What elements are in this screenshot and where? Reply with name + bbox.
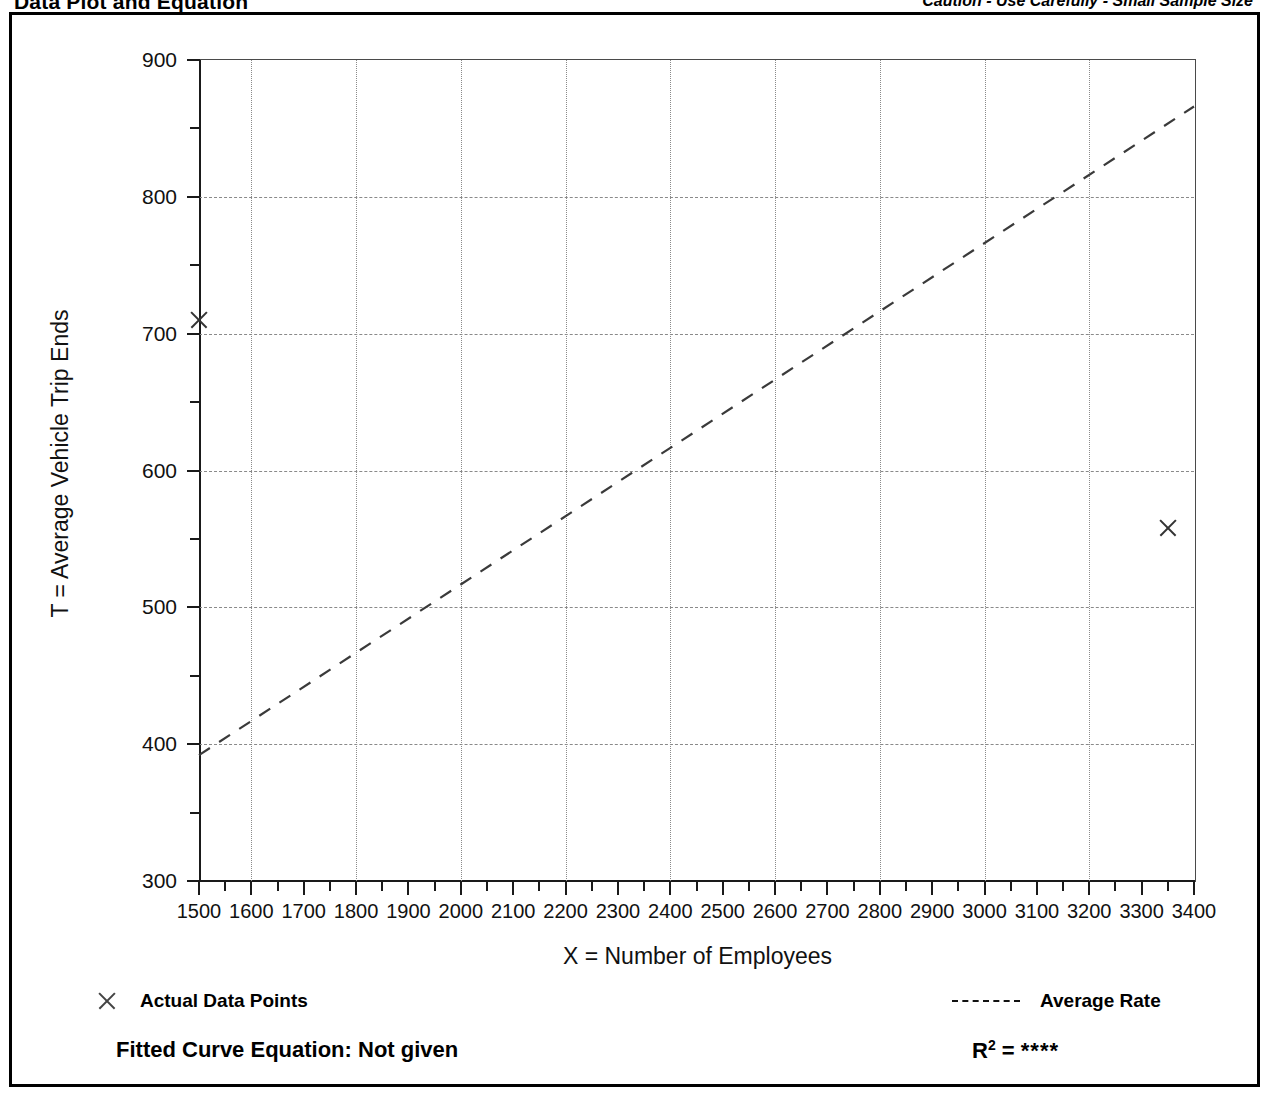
x-minor-tick-2250	[591, 882, 593, 891]
caution-note: Caution - Use Carefully - Small Sample S…	[922, 0, 1253, 10]
x-marker-icon	[96, 990, 118, 1012]
r-squared-value: R2 = ****	[972, 1037, 1059, 1064]
x-tick-1700	[303, 882, 305, 895]
r2-exponent: 2	[988, 1037, 996, 1053]
dashed-line-icon	[952, 1000, 1020, 1002]
y-tick-700	[187, 333, 200, 335]
gridline-x-2600	[775, 60, 776, 881]
y-tick-label-500: 500	[107, 596, 177, 617]
legend-label-data-points: Actual Data Points	[140, 990, 308, 1012]
x-tick-1500	[198, 882, 200, 895]
x-axis-title: X = Number of Employees	[199, 943, 1196, 970]
y-minor-tick-350	[190, 812, 200, 814]
y-tick-label-900: 900	[107, 49, 177, 70]
x-minor-tick-1750	[329, 882, 331, 891]
x-tick-2500	[722, 882, 724, 895]
y-minor-tick-850	[190, 127, 200, 129]
gridline-x-3200	[1089, 60, 1090, 881]
gridline-x-2200	[566, 60, 567, 881]
legend-item-data-points: Actual Data Points	[96, 990, 308, 1012]
x-tick-3200	[1088, 882, 1090, 895]
y-tick-label-400: 400	[107, 733, 177, 754]
chart-legend: Actual Data Points Average Rate	[12, 990, 1263, 1026]
x-minor-tick-1950	[434, 882, 436, 891]
plot-region	[199, 60, 1194, 881]
x-tick-3000	[984, 882, 986, 895]
gridline-x-2800	[880, 60, 881, 881]
x-tick-2300	[617, 882, 619, 895]
y-tick-label-700: 700	[107, 323, 177, 344]
x-tick-2400	[669, 882, 671, 895]
x-tick-2800	[879, 882, 881, 895]
x-tick-1600	[250, 882, 252, 895]
fitted-curve-equation: Fitted Curve Equation: Not given	[116, 1037, 458, 1063]
gridline-x-1800	[356, 60, 357, 881]
y-minor-tick-650	[190, 401, 200, 403]
x-minor-tick-2950	[957, 882, 959, 891]
y-tick-900	[187, 59, 200, 61]
x-minor-tick-3050	[1010, 882, 1012, 891]
r2-symbol: R	[972, 1038, 988, 1063]
gridline-y-800	[199, 197, 1194, 198]
chart-area: 300400500600700800900 150016001700180019…	[12, 15, 1263, 1090]
y-tick-500	[187, 606, 200, 608]
x-tick-2900	[931, 882, 933, 895]
y-tick-600	[187, 470, 200, 472]
legend-item-average-rate: Average Rate	[952, 990, 1161, 1012]
gridline-y-400	[199, 744, 1194, 745]
x-tick-2700	[826, 882, 828, 895]
x-tick-2200	[565, 882, 567, 895]
r2-equals: =	[996, 1038, 1021, 1063]
x-tick-3100	[1036, 882, 1038, 895]
x-tick-1800	[355, 882, 357, 895]
x-minor-tick-1850	[381, 882, 383, 891]
x-minor-tick-2750	[853, 882, 855, 891]
y-tick-label-600: 600	[107, 460, 177, 481]
x-minor-tick-2650	[800, 882, 802, 891]
x-tick-2000	[460, 882, 462, 895]
plot-right-border	[1195, 59, 1196, 882]
x-minor-tick-3150	[1062, 882, 1064, 891]
x-tick-3400	[1193, 882, 1195, 895]
r2-stars: ****	[1021, 1038, 1059, 1063]
gridline-y-600	[199, 471, 1194, 472]
chart-footer: Fitted Curve Equation: Not given R2 = **…	[12, 1037, 1263, 1077]
x-minor-tick-2850	[905, 882, 907, 891]
x-minor-tick-1650	[277, 882, 279, 891]
y-tick-400	[187, 743, 200, 745]
x-minor-tick-2550	[748, 882, 750, 891]
chart-panel-frame: 300400500600700800900 150016001700180019…	[9, 12, 1260, 1087]
x-minor-tick-3350	[1167, 882, 1169, 891]
x-tick-2600	[774, 882, 776, 895]
x-minor-tick-3250	[1114, 882, 1116, 891]
gridline-x-1600	[251, 60, 252, 881]
data-point-marker-1	[1157, 517, 1179, 539]
gridline-x-2000	[461, 60, 462, 881]
y-tick-label-300: 300	[107, 870, 177, 891]
y-axis-title: T = Average Vehicle Trip Ends	[47, 184, 74, 744]
y-minor-tick-750	[190, 264, 200, 266]
x-tick-2100	[512, 882, 514, 895]
data-point-marker-0	[188, 309, 210, 331]
y-minor-tick-450	[190, 675, 200, 677]
y-minor-tick-550	[190, 538, 200, 540]
x-minor-tick-2050	[486, 882, 488, 891]
y-tick-800	[187, 196, 200, 198]
gridline-x-3000	[985, 60, 986, 881]
legend-label-average-rate: Average Rate	[1040, 990, 1161, 1012]
gridline-y-700	[199, 334, 1194, 335]
x-tick-3300	[1141, 882, 1143, 895]
x-tick-label-3400: 3400	[1159, 901, 1229, 921]
x-minor-tick-2350	[643, 882, 645, 891]
x-tick-1900	[407, 882, 409, 895]
gridline-x-2400	[670, 60, 671, 881]
x-minor-tick-1550	[224, 882, 226, 891]
x-minor-tick-2450	[696, 882, 698, 891]
y-tick-label-800: 800	[107, 186, 177, 207]
x-minor-tick-2150	[538, 882, 540, 891]
gridline-y-500	[199, 607, 1194, 608]
